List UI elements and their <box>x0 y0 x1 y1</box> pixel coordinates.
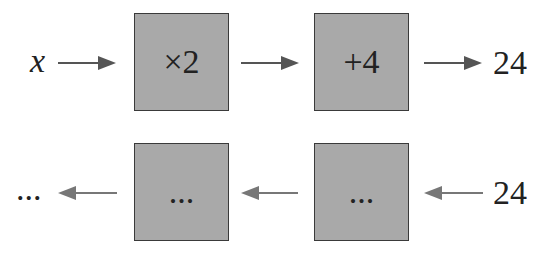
reverse-arrow-2 <box>241 186 298 200</box>
reverse-arrow-3 <box>424 186 483 200</box>
reverse-box-1: ... <box>134 143 229 241</box>
add-box: +4 <box>314 13 409 111</box>
reverse-input-label: 24 <box>493 176 527 210</box>
reverse-output-label: ... <box>16 172 42 206</box>
reverse-arrow-1 <box>58 186 117 200</box>
function-machine-diagram: x ×2 +4 24 ... ... ... 24 <box>0 0 552 255</box>
forward-input-label: x <box>30 44 45 78</box>
reverse-box-2: ... <box>314 143 409 241</box>
arrows-layer <box>0 0 552 255</box>
forward-arrow-1 <box>58 56 116 70</box>
forward-output-label: 24 <box>493 46 527 80</box>
multiply-box-label: ×2 <box>163 43 199 81</box>
reverse-box-2-label: ... <box>349 173 375 211</box>
reverse-box-1-label: ... <box>169 173 195 211</box>
forward-arrow-2 <box>241 56 299 70</box>
add-box-label: +4 <box>343 43 379 81</box>
forward-arrow-3 <box>424 56 482 70</box>
multiply-box: ×2 <box>134 13 229 111</box>
